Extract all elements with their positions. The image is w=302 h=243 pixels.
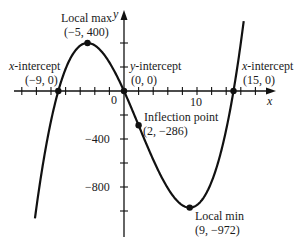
y-axis bbox=[120, 10, 128, 237]
annotation-local-max: Local max (−5, 400) bbox=[61, 11, 112, 39]
local-max-title: Local max bbox=[61, 11, 112, 25]
y-axis-arrow-icon bbox=[121, 10, 128, 20]
y-axis-label: y bbox=[112, 7, 119, 21]
annotation-x-intercept-left: x-intercept (−9, 0) bbox=[8, 59, 61, 87]
y-tick-label-minus-400: −400 bbox=[85, 132, 110, 146]
local-min-coords: (9, −972) bbox=[195, 223, 240, 237]
plot-svg: y x 0 10 −400 −800 Local max (−5, 400) x… bbox=[0, 0, 302, 243]
local-max-coords: (−5, 400) bbox=[64, 25, 109, 39]
annotation-x-intercept-right: x-intercept (15, 0) bbox=[241, 59, 294, 87]
x-intercept-left-title: x-intercept bbox=[8, 59, 61, 73]
x-intercept-left-coords: (−9, 0) bbox=[25, 73, 58, 87]
inflection-coords: (2, −286) bbox=[143, 124, 188, 138]
y-tick-label-minus-800: −800 bbox=[85, 180, 110, 194]
annotation-local-min: Local min (9, −972) bbox=[195, 209, 244, 237]
origin-label: 0 bbox=[111, 93, 117, 107]
x-intercept-right-point bbox=[230, 88, 236, 94]
local-max-point bbox=[84, 40, 90, 46]
x-tick-label-10: 10 bbox=[190, 95, 202, 109]
cubic-function-graph: y x 0 10 −400 −800 Local max (−5, 400) x… bbox=[0, 0, 302, 243]
local-min-point bbox=[187, 204, 193, 210]
inflection-title: Inflection point bbox=[144, 110, 219, 124]
x-intercept-right-title: x-intercept bbox=[241, 59, 294, 73]
y-intercept-point bbox=[121, 88, 127, 94]
y-intercept-title: y-intercept bbox=[129, 59, 182, 73]
annotation-inflection: Inflection point (2, −286) bbox=[143, 110, 219, 138]
x-intercept-left-point bbox=[55, 88, 61, 94]
local-min-title: Local min bbox=[195, 209, 244, 223]
x-axis-label: x bbox=[266, 94, 273, 108]
annotation-y-intercept: y-intercept (0, 0) bbox=[129, 59, 182, 87]
y-intercept-coords: (0, 0) bbox=[131, 73, 157, 87]
x-intercept-right-coords: (15, 0) bbox=[243, 73, 275, 87]
inflection-point bbox=[135, 122, 141, 128]
